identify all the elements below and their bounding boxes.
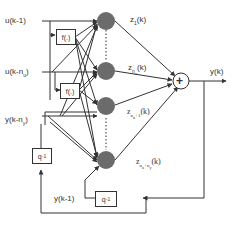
input-u-k-1: u(k-1) — [5, 17, 26, 25]
label-y-k-1: y(k-1) — [54, 195, 74, 203]
label-znu-plus-1: znu+1(k) — [127, 108, 150, 120]
neuron-nu — [97, 62, 115, 80]
neuron-nu-plus-1 — [97, 97, 115, 115]
input-u-k-nu: u(k-nu) — [5, 68, 29, 78]
f-block-1: f(.) — [56, 29, 76, 45]
label-sub: y — [23, 120, 26, 126]
label-tail: (k) — [140, 107, 149, 116]
neuron-1 — [97, 12, 115, 30]
label-tail: (k) — [137, 15, 146, 24]
label-tail: (k) — [151, 157, 160, 166]
f-block-2: f(.) — [60, 83, 80, 99]
label-z1: z1(k) — [130, 16, 146, 26]
delay-block-left: q-1 — [32, 148, 52, 164]
label-text: y(k-n — [5, 115, 23, 124]
delay-block-bottom: q-1 — [95, 191, 117, 207]
neuron-nu-plus-ny — [97, 151, 115, 169]
label-sub: u — [23, 72, 26, 78]
label-text: u(k-n — [5, 67, 23, 76]
label-znu: znu(k) — [128, 64, 146, 76]
label-sup: -1 — [42, 153, 46, 159]
label-tail: (k) — [137, 63, 146, 72]
input-y-k-ny: y(k-ny) — [5, 116, 28, 126]
label-znu-plus-ny: znu+ny(k) — [136, 158, 161, 170]
plus-icon: + — [176, 75, 183, 87]
diagram-wires — [0, 0, 234, 226]
output-y-k: y(k) — [210, 68, 223, 76]
label-sup: -1 — [106, 196, 110, 202]
narx-diagram: + u(k-1) u(k-nu) y(k-ny) f(.) f(.) q-1 q… — [0, 0, 234, 226]
